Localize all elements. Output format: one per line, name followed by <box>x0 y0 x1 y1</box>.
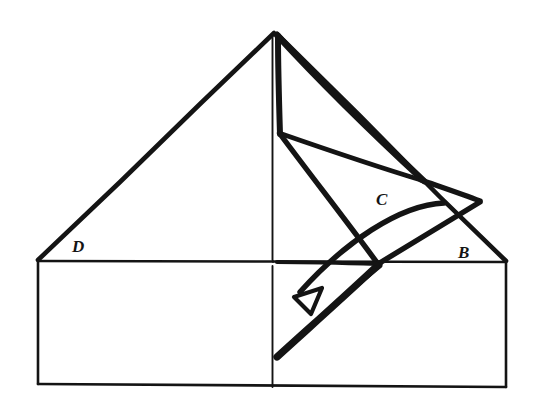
flap-inner-fold-edge <box>278 36 280 134</box>
vertex-label-d: D <box>71 237 84 256</box>
origami-fold-diagram: D B C <box>0 0 541 417</box>
vertex-label-b: B <box>457 243 469 262</box>
box-top-edge <box>38 261 273 262</box>
vertex-label-c: C <box>376 190 388 209</box>
paper-background <box>0 0 541 417</box>
figure-canvas: D B C <box>0 0 541 417</box>
